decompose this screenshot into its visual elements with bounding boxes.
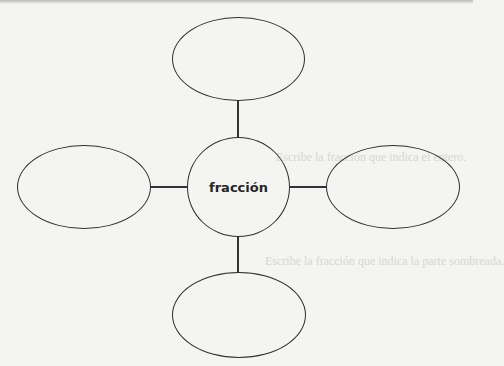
- branch-node-bottom[interactable]: [172, 272, 306, 358]
- branch-node-left[interactable]: [17, 145, 151, 229]
- branch-node-right[interactable]: [326, 145, 460, 229]
- bleed-text-2: Escribe la fracción que indica la parte …: [265, 254, 504, 269]
- center-node: fracción: [187, 137, 290, 237]
- center-label: fracción: [209, 180, 268, 195]
- page-edge-bleed: [0, 0, 473, 4]
- connector-right: [290, 186, 327, 188]
- branch-node-top[interactable]: [172, 17, 305, 101]
- connector-bottom: [237, 236, 239, 273]
- connector-left: [150, 186, 188, 188]
- connector-top: [237, 100, 239, 138]
